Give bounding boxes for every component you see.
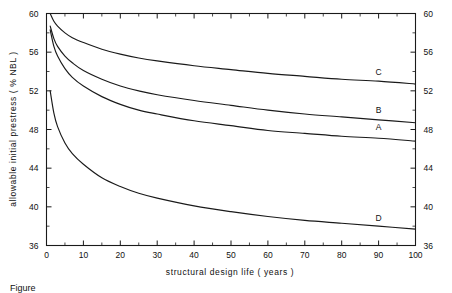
- curve-c: [50, 14, 415, 85]
- x-tick-label: 80: [337, 250, 347, 260]
- x-tick-label: 40: [189, 250, 199, 260]
- y-tick-label-right: 44: [424, 163, 434, 173]
- x-tick-label: 20: [116, 250, 126, 260]
- y-tick-label-right: 36: [424, 241, 434, 251]
- x-tick-label: 100: [408, 250, 422, 260]
- x-tick-label: 90: [374, 250, 384, 260]
- y-tick-label-left: 48: [29, 125, 39, 135]
- chart-canvas: 0102030405060708090100364044485256603640…: [0, 0, 452, 293]
- curve-a: [50, 30, 415, 141]
- figure-container: 0102030405060708090100364044485256603640…: [0, 0, 452, 293]
- y-tick-label-left: 56: [29, 47, 39, 57]
- y-tick-label-right: 40: [424, 202, 434, 212]
- y-tick-label-left: 52: [29, 86, 39, 96]
- y-tick-label-left: 60: [29, 9, 39, 19]
- curve-label-a: A: [376, 122, 382, 132]
- y-tick-label-left: 36: [29, 241, 39, 251]
- x-tick-label: 0: [44, 250, 49, 260]
- curve-d: [50, 91, 415, 229]
- x-tick-label: 50: [226, 250, 236, 260]
- figure-caption: Figure: [10, 283, 36, 293]
- curve-b: [50, 26, 415, 123]
- x-tick-label: 60: [263, 250, 273, 260]
- y-axis-title: allowable initial prestress ( % NBL ): [8, 51, 18, 207]
- y-tick-label-right: 52: [424, 86, 434, 96]
- x-axis-title: structural design life ( years ): [166, 267, 294, 277]
- curve-label-d: D: [376, 213, 382, 223]
- y-tick-label-right: 48: [424, 125, 434, 135]
- plot-frame: [47, 14, 416, 246]
- y-tick-label-left: 44: [29, 163, 39, 173]
- data-curves: [50, 14, 415, 230]
- x-tick-label: 70: [300, 250, 310, 260]
- x-tick-label: 30: [152, 250, 162, 260]
- axis-ticks: [47, 14, 416, 246]
- curve-labels: CBAD: [376, 67, 382, 223]
- y-tick-label-left: 40: [29, 202, 39, 212]
- x-tick-label: 10: [79, 250, 89, 260]
- curve-label-c: C: [376, 67, 382, 77]
- y-tick-label-right: 56: [424, 47, 434, 57]
- y-tick-label-right: 60: [424, 9, 434, 19]
- axis-tick-labels: 0102030405060708090100364044485256603640…: [29, 9, 433, 260]
- curve-label-b: B: [376, 105, 382, 115]
